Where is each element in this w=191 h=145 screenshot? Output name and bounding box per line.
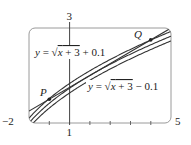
y-bottom-label: 1 xyxy=(67,126,73,138)
x-right-label: 5 xyxy=(175,115,181,127)
svg-text:y = √x + 3 + 0.1: y = √x + 3 + 0.1 xyxy=(34,46,105,58)
function-graph: 3 −2 5 1 P Q y = √x + 3 + 0.1 y = √x + 3… xyxy=(0,0,191,145)
x-left-label: −2 xyxy=(2,115,14,127)
y-top-label: 3 xyxy=(67,10,73,22)
point-p-label: P xyxy=(39,86,47,98)
point-q xyxy=(149,38,153,42)
upper-curve-label: y = √x + 3 + 0.1 xyxy=(33,46,105,59)
svg-text:y = √x + 3 − 0.1: y = √x + 3 − 0.1 xyxy=(87,80,158,92)
lower-curve-label: y = √x + 3 − 0.1 xyxy=(86,80,160,93)
viewing-window-frame xyxy=(29,28,171,123)
point-p xyxy=(47,97,51,101)
point-q-label: Q xyxy=(134,28,142,40)
